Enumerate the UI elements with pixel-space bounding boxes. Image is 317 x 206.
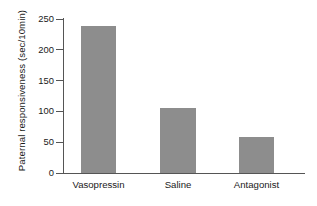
y-tick-label: 0 [14,168,54,177]
y-tick-mark [56,111,63,112]
x-category-label: Antagonist [197,179,317,190]
y-tick-mark [56,142,63,143]
plot-area [63,19,305,173]
y-tick-label: 250 [14,14,54,23]
y-tick-label: 50 [14,137,54,146]
y-tick-label: 200 [14,45,54,54]
x-axis-line [62,173,305,174]
y-tick-mark [56,173,63,174]
y-tick-label: 150 [14,76,54,85]
bar [160,108,196,173]
y-tick-mark [56,80,63,81]
y-axis-title: Paternal responsiveness (sec/10min) [16,6,27,176]
y-tick-label: 100 [14,106,54,115]
bar [239,137,274,173]
y-tick-mark [56,19,63,20]
bar-chart-figure: Paternal responsiveness (sec/10min) 0501… [0,0,317,206]
y-tick-mark [56,49,63,50]
bar [81,26,116,173]
